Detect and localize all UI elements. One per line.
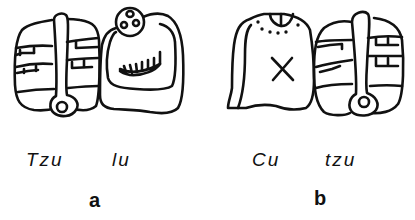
cu-glyph-icon (228, 14, 314, 109)
panel-letter-b: b (314, 188, 326, 208)
syllable-label-tzu-b: tzu (325, 150, 356, 169)
syllable-label-cu: Cu (252, 150, 280, 169)
glyph-drawing (0, 0, 415, 220)
tzu-glyph-icon (15, 14, 100, 117)
tzu-glyph-icon (314, 12, 403, 115)
panel-letter-a: a (89, 190, 100, 210)
syllable-label-tzu: Tzu (26, 150, 64, 169)
lu-glyph-icon (100, 8, 183, 113)
syllable-label-lu: lu (112, 150, 131, 169)
